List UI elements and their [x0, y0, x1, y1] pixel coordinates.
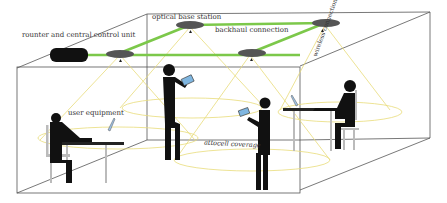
- base-station-label: optical base station: [152, 14, 221, 21]
- base-station-2: [176, 21, 204, 29]
- base-station-3: [238, 49, 266, 57]
- router-unit: [50, 48, 88, 62]
- attocell-network-diagram: rounter and central control unit optical…: [0, 0, 447, 203]
- room-box: [17, 12, 430, 193]
- backhaul-label: backhaul connection: [215, 27, 288, 34]
- standing-user-1: [163, 64, 194, 160]
- base-station-1: [106, 50, 134, 58]
- router-label: rounter and central control unit: [22, 32, 135, 39]
- user-equipment-label: user equipment: [68, 110, 124, 117]
- seated-user-right: [283, 80, 359, 151]
